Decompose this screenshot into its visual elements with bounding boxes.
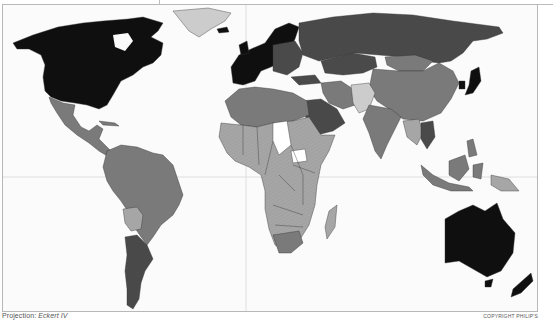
region-russia-hatch [299, 13, 503, 63]
region-tasmania [485, 279, 493, 287]
region-caribbean [99, 121, 119, 126]
projection-caption: Projection: Eckert IV [2, 312, 68, 319]
region-philippines [467, 139, 477, 157]
region-south-america-north [103, 145, 183, 245]
copyright-notice: COPYRIGHT PHILIP'S [483, 313, 538, 319]
region-new-zealand [511, 273, 533, 297]
region-eastern-europe [273, 41, 303, 75]
region-argentina-hatch [125, 235, 153, 309]
region-japan [465, 67, 481, 95]
region-australia [445, 203, 515, 277]
region-uk [239, 41, 249, 55]
region-madagascar [325, 205, 337, 239]
region-india [363, 105, 401, 159]
region-south-africa [273, 231, 303, 253]
region-thailand [421, 121, 435, 149]
region-iceland [217, 27, 229, 33]
region-north-america [13, 17, 163, 109]
region-sulawesi [473, 163, 483, 179]
region-turkey [291, 75, 321, 85]
world-map [3, 5, 537, 311]
region-korea [459, 81, 465, 89]
region-southeast-asia [403, 119, 423, 145]
projection-label: Projection: [2, 312, 36, 319]
map-frame [2, 4, 538, 312]
projection-name: Eckert IV [38, 312, 67, 319]
